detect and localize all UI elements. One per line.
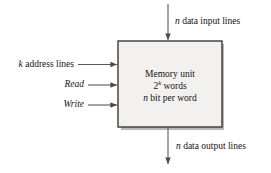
address-lines-label: k address lines [0, 59, 74, 70]
block-words-tail: words [161, 81, 187, 91]
data-output-lines-label: n data output lines [176, 141, 246, 152]
block-line-3: n bit per word [118, 92, 222, 104]
data-output-text: data output lines [181, 141, 246, 151]
address-text: address lines [23, 59, 74, 69]
memory-unit-diagram: n data input lines k address lines Read … [0, 0, 271, 173]
write-label: Write [0, 99, 84, 110]
data-input-text: data input lines [180, 16, 240, 26]
read-label: Read [0, 79, 84, 90]
block-line-2: 2k words [118, 80, 222, 92]
block-line-1: Memory unit [118, 68, 222, 80]
block-bits-tail: bit per word [148, 93, 197, 103]
data-input-lines-label: n data input lines [175, 16, 240, 27]
